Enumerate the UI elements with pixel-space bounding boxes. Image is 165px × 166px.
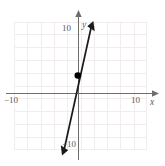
data-point-y-intercept	[75, 72, 82, 79]
y-axis-name-label: y	[82, 21, 86, 31]
y-axis-tick-label-negative-10: −10	[62, 140, 76, 149]
x-axis-tick-label-10: 10	[131, 96, 140, 105]
plotted-line	[61, 21, 95, 156]
x-axis-tick-label-negative-10: −10	[4, 96, 18, 105]
x-axis-name-label: x	[150, 98, 154, 108]
y-axis-tick-label-10: 10	[62, 24, 71, 33]
graph-figure: 10 −10 −10 10 y x	[0, 0, 165, 166]
